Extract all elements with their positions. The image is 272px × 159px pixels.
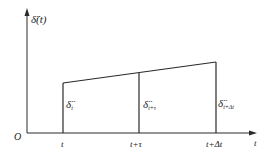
value-label-t-plus-delta-t: δ̈t+Δt bbox=[218, 97, 234, 110]
acceleration-diagram: δ̈(t) O t t+τ t+Δt t δ̈t δ̈t+τ δ̈t+Δt bbox=[0, 0, 272, 159]
x-axis-label: t bbox=[254, 138, 257, 148]
value-subscript: t+Δt bbox=[223, 104, 234, 110]
tick-label-t: t bbox=[61, 139, 64, 149]
tick-label-t-plus-delta-t: t+Δt bbox=[206, 139, 223, 149]
origin-label: O bbox=[14, 131, 21, 142]
x-axis-arrow-icon bbox=[249, 131, 257, 136]
y-axis-arrow-icon bbox=[25, 8, 30, 16]
tick-label-t-plus-tau: t+τ bbox=[130, 139, 143, 149]
y-axis-label: δ̈(t) bbox=[31, 13, 47, 26]
value-subscript: t bbox=[71, 105, 73, 111]
value-label-t: δ̈t bbox=[66, 98, 76, 111]
value-subscript: t+τ bbox=[148, 105, 157, 111]
value-label-t-plus-tau: δ̈t+τ bbox=[143, 98, 157, 111]
